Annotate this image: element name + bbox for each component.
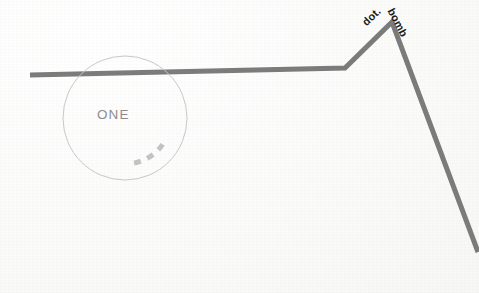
circle-label-one: ONE [97, 107, 130, 122]
vector-drawing-layer [0, 0, 479, 293]
diagram-canvas: ONE dot. bomb [0, 0, 479, 293]
dashed-arc [133, 144, 163, 163]
trend-line [30, 22, 478, 252]
